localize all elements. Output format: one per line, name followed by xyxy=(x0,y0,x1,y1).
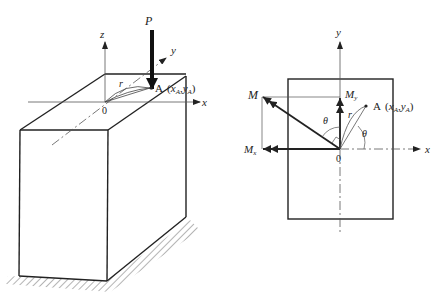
moment-Mx-label: Mx xyxy=(243,143,257,157)
theta-right-label: θ xyxy=(362,128,367,139)
svg-text:A (xA,yA): A (xA,yA) xyxy=(373,100,414,114)
theta-left-label: θ xyxy=(323,115,328,126)
moment-M-label: M xyxy=(247,88,259,102)
radius-r-left xyxy=(105,87,150,102)
right-panel-section: y x 0 M My Mx r θ θ A (xA,yA) xyxy=(243,26,430,232)
point-A-right xyxy=(364,104,367,107)
radius-r-label: r xyxy=(119,78,123,89)
point-A-left xyxy=(150,87,153,90)
svg-text:A (xA,yA): A (xA,yA) xyxy=(155,82,196,96)
y-axis-label: y xyxy=(170,44,176,56)
x-axis-right-label: x xyxy=(424,143,430,155)
y-axis-right-label: y xyxy=(335,26,341,38)
point-A-coords-left: A (xA,yA) xyxy=(155,82,196,96)
radius-r-right-label: r xyxy=(348,109,352,120)
point-A-coords-right: A (xA,yA) xyxy=(373,100,414,114)
force-P-label: P xyxy=(144,14,153,28)
origin-right-label: 0 xyxy=(336,153,341,164)
theta-arc-left xyxy=(322,127,340,137)
z-axis-label: z xyxy=(99,28,105,40)
moment-My-label: My xyxy=(344,88,358,102)
moment-M-arrow xyxy=(263,97,340,149)
origin-label: 0 xyxy=(102,105,107,116)
figure-canvas: P z y x 0 r A (xA,yA) xyxy=(0,0,437,301)
x-axis-label: x xyxy=(201,96,207,108)
left-panel-column: P z y x 0 r A (xA,yA) xyxy=(6,14,207,292)
